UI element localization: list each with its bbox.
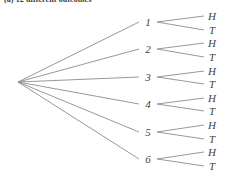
branch-1-to-T-1 [157,22,204,30]
branch-3-to-H-4 [157,71,204,77]
tree-branches [0,0,226,178]
coin-node-T-3: T [209,52,215,63]
branch-1-to-H-0 [157,16,204,22]
branch-4-to-H-6 [157,98,204,104]
die-node-2: 2 [145,44,151,55]
coin-node-T-1: T [209,25,215,36]
branch-6-to-T-11 [157,159,204,166]
branch-6-to-H-10 [157,152,204,159]
branch-3-to-T-5 [157,77,204,84]
die-node-6: 6 [145,154,151,165]
tree-diagram-figure: (a) 12 different outcomes 123456HTHTHTHT… [0,0,226,178]
branch-4-to-T-7 [157,104,204,111]
branch-root-to-4 [18,82,139,104]
coin-branch-group [157,16,204,166]
coin-node-T-7: T [209,106,215,117]
branch-2-to-T-3 [157,49,204,57]
branch-root-to-6 [18,82,139,159]
coin-node-H-8: H [208,120,216,131]
coin-node-T-5: T [209,79,215,90]
branch-5-to-H-8 [157,125,204,132]
coin-node-H-4: H [208,66,216,77]
coin-node-H-10: H [208,147,216,158]
branch-root-to-3 [18,77,139,82]
branch-root-to-5 [18,82,139,132]
branch-2-to-H-2 [157,43,204,49]
branch-root-to-2 [18,49,139,82]
coin-node-T-9: T [209,134,215,145]
coin-node-T-11: T [209,161,215,172]
branch-5-to-T-9 [157,132,204,139]
die-node-1: 1 [145,17,151,28]
branch-root-to-1 [18,22,139,82]
die-node-4: 4 [145,99,151,110]
die-node-5: 5 [145,127,151,138]
die-branch-group [18,22,139,159]
coin-node-H-2: H [208,38,216,49]
die-node-3: 3 [145,72,151,83]
coin-node-H-0: H [208,11,216,22]
coin-node-H-6: H [208,93,216,104]
